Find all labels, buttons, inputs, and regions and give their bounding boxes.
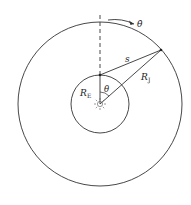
jupiter-radius-line <box>100 50 161 104</box>
jupiter-point <box>160 49 163 52</box>
orbit-diagram: θ̇ s R J R E θ <box>0 0 191 205</box>
s-label: s <box>125 54 130 64</box>
separation-line-s <box>100 50 161 75</box>
r-j-subscript: J <box>147 76 151 84</box>
r-e-subscript: E <box>87 92 91 99</box>
theta-dot-label: θ̇ <box>137 19 143 29</box>
r-e-label: R <box>79 88 87 98</box>
arrow-head-icon <box>129 21 134 26</box>
r-j-label: R <box>140 72 148 82</box>
earth-point <box>99 74 102 77</box>
theta-label: θ <box>104 84 109 94</box>
